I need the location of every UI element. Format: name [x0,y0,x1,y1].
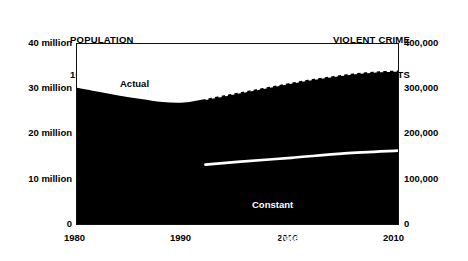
x-tick-2010: 2010 [383,232,404,243]
left-tick-40m: 40 million [28,38,72,48]
right-tick-200000: 200,000 [404,128,438,138]
right-tick-0: 0 [404,219,409,229]
population-area-series [77,71,398,224]
x-tick-1980: 1980 [64,232,85,243]
left-tick-10m: 10 million [28,174,72,184]
annotation-constant-line2: arrest rates [252,232,304,243]
chart-svg [77,44,398,224]
left-tick-30m: 30 million [28,83,72,93]
annotation-constant-line1: Constant [252,199,304,210]
annotation-constant-arrest-rates: Constant arrest rates [252,177,304,261]
x-tick-1990: 1990 [170,232,191,243]
left-tick-20m: 20 million [28,128,72,138]
annotation-actual: Actual [120,78,149,89]
right-tick-100000: 100,000 [404,174,438,184]
right-tick-300000: 300,000 [404,83,438,93]
plot-area [76,43,399,225]
chart-container: POPULATION 10–17 IN 1,000s VIOLENT CRIME… [0,0,468,261]
left-tick-0: 0 [67,219,72,229]
right-tick-400000: 400,000 [404,38,438,48]
